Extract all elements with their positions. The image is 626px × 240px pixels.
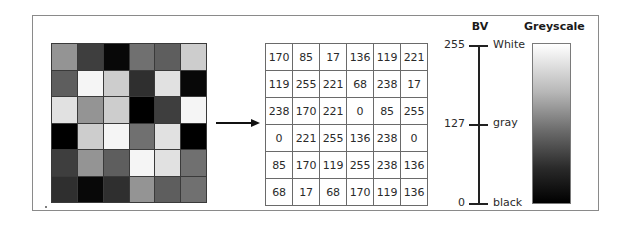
table-cell: 17: [401, 71, 428, 98]
bv-tick-255: [469, 45, 488, 47]
table-cell: 136: [401, 179, 428, 206]
table-cell: 170: [266, 44, 293, 71]
bv-label-gray: gray: [493, 116, 518, 129]
image-pixel: [181, 44, 206, 70]
arrow-right-icon: [216, 122, 252, 124]
image-pixel: [155, 177, 180, 203]
image-pixel: [52, 177, 77, 203]
image-pixel: [181, 150, 206, 176]
image-pixel: [78, 150, 103, 176]
arrow-head-icon: [251, 119, 260, 127]
table-cell: 221: [401, 44, 428, 71]
image-pixel: [52, 97, 77, 123]
bv-label-black: black: [493, 196, 522, 209]
image-pixel: [104, 177, 129, 203]
table-cell: 68: [347, 71, 374, 98]
greyscale-image-grid: [51, 43, 207, 203]
image-pixel: [104, 71, 129, 97]
brightness-value-table: 170 85 17 136 119 221 119 255 221 68 238…: [265, 43, 428, 206]
image-pixel: [181, 71, 206, 97]
table-cell: 221: [320, 98, 347, 125]
table-cell: 0: [347, 98, 374, 125]
image-pixel: [155, 44, 180, 70]
image-pixel: [52, 71, 77, 97]
image-pixel: [130, 44, 155, 70]
table-cell: 136: [401, 152, 428, 179]
table-cell: 221: [293, 125, 320, 152]
table-cell: 136: [347, 44, 374, 71]
table-cell: 119: [374, 179, 401, 206]
image-pixel: [104, 150, 129, 176]
table-row: 85 170 119 255 238 136: [266, 152, 428, 179]
table-cell: 0: [266, 125, 293, 152]
image-pixel: [52, 44, 77, 70]
image-pixel: [78, 44, 103, 70]
table-cell: 255: [401, 98, 428, 125]
image-pixel: [130, 124, 155, 150]
table-row: 68 17 68 170 119 136: [266, 179, 428, 206]
image-pixel: [155, 124, 180, 150]
image-pixel: [130, 97, 155, 123]
greyscale-gradient-bar: [532, 43, 571, 204]
table-cell: 255: [320, 125, 347, 152]
image-pixel: [155, 150, 180, 176]
table-row: 0 221 255 136 238 0: [266, 125, 428, 152]
table-cell: 238: [374, 125, 401, 152]
bv-value-127: 127: [435, 117, 465, 130]
bv-scale-title: BV: [470, 20, 490, 33]
table-cell: 170: [293, 152, 320, 179]
image-pixel: [52, 124, 77, 150]
image-pixel: [181, 177, 206, 203]
image-pixel: [181, 97, 206, 123]
table-cell: 221: [320, 71, 347, 98]
table-cell: 136: [347, 125, 374, 152]
image-pixel: [78, 71, 103, 97]
table-cell: 119: [320, 152, 347, 179]
image-pixel: [104, 97, 129, 123]
table-row: 170 85 17 136 119 221: [266, 44, 428, 71]
image-pixel: [155, 97, 180, 123]
bv-label-white: White: [493, 38, 525, 51]
table-row: 119 255 221 68 238 17: [266, 71, 428, 98]
table-cell: 0: [401, 125, 428, 152]
greyscale-title: Greyscale: [524, 20, 580, 33]
table-cell: 170: [293, 98, 320, 125]
image-pixel: [104, 44, 129, 70]
image-pixel: [78, 124, 103, 150]
image-pixel: [78, 177, 103, 203]
table-row: 238 170 221 0 85 255: [266, 98, 428, 125]
table-cell: 85: [374, 98, 401, 125]
image-pixel: [78, 97, 103, 123]
image-pixel: [130, 71, 155, 97]
bv-value-255: 255: [435, 38, 465, 51]
table-cell: 238: [374, 71, 401, 98]
table-cell: 68: [266, 179, 293, 206]
image-pixel: [130, 150, 155, 176]
table-cell: 238: [266, 98, 293, 125]
bv-tick-127: [469, 124, 488, 126]
stray-dot: [45, 206, 47, 208]
table-cell: 17: [293, 179, 320, 206]
table-cell: 238: [374, 152, 401, 179]
table-cell: 255: [293, 71, 320, 98]
table-cell: 85: [293, 44, 320, 71]
bv-value-0: 0: [435, 196, 465, 209]
image-pixel: [155, 71, 180, 97]
image-pixel: [130, 177, 155, 203]
table-cell: 85: [266, 152, 293, 179]
image-pixel: [181, 124, 206, 150]
image-pixel: [52, 150, 77, 176]
table-cell: 170: [347, 179, 374, 206]
table-cell: 17: [320, 44, 347, 71]
bv-tick-0: [469, 203, 488, 205]
image-pixel: [104, 124, 129, 150]
table-cell: 68: [320, 179, 347, 206]
table-cell: 119: [374, 44, 401, 71]
table-cell: 255: [347, 152, 374, 179]
table-cell: 119: [266, 71, 293, 98]
